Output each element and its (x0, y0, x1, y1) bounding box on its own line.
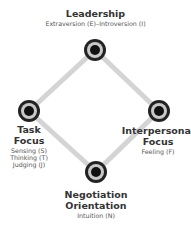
edge-leadership-interpersonal (95, 50, 159, 111)
interpersonal-focus-node (148, 100, 170, 122)
interpersonal-focus-sub-1: Feeling (F) (120, 148, 191, 155)
negotiation-orientation-title-2: Orientation (50, 201, 142, 212)
leadership-sub: Extraversion (E)–Introversion (I) (0, 20, 191, 27)
task-focus-sub-3: Judging (J) (0, 161, 58, 168)
task-focus-sub-1: Sensing (S) (0, 147, 58, 154)
leadership-node (84, 39, 106, 61)
task-focus-node (18, 100, 40, 122)
edge-leadership-task (29, 50, 95, 111)
interpersonal-focus-title-2: Focus (120, 137, 191, 148)
leadership-label: Leadership Extraversion (E)–Introversion… (0, 9, 191, 27)
negotiation-orientation-label: Negotiation Orientation Intuition (N) (50, 190, 142, 219)
task-focus-label: Task Focus Sensing (S) Thinking (T) Judg… (0, 125, 58, 169)
negotiation-orientation-sub-1: Intuition (N) (50, 212, 142, 219)
interpersonal-focus-label: Interpersonal Focus Feeling (F) (120, 126, 191, 155)
leadership-title: Leadership (0, 9, 191, 20)
task-focus-sub-2: Thinking (T) (0, 154, 58, 161)
negotiation-orientation-node (85, 161, 107, 183)
task-focus-title-2: Focus (0, 136, 58, 147)
